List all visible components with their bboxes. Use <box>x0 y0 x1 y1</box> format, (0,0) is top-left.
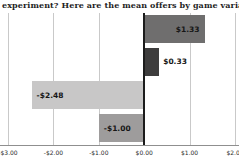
plot-area: $1.33$0.33-$2.48-$1.00 <box>8 13 235 145</box>
x-axis-tick-row: -$3.00-$2.00-$1.00$0.00$1.00$2.00 <box>0 149 239 161</box>
bar-value-label: -$2.48 <box>37 91 64 100</box>
x-axis-line <box>0 145 239 146</box>
x-tick-label: $1.00 <box>181 149 198 156</box>
x-tick-label: $2.00 <box>226 149 239 156</box>
bar-value-label: $0.33 <box>163 48 187 76</box>
x-tick-label: -$3.00 <box>0 149 18 156</box>
bar: -$1.00 <box>99 114 144 142</box>
x-tick-label: $0.00 <box>136 149 153 156</box>
gridline <box>8 13 9 145</box>
bar <box>144 48 159 76</box>
bar: -$2.48 <box>32 81 145 109</box>
x-tick-label: -$1.00 <box>89 149 108 156</box>
bar-value-label: $1.33 <box>176 25 200 34</box>
zero-axis-line <box>143 13 145 145</box>
gridline <box>53 13 54 145</box>
bar: $1.33 <box>144 15 204 43</box>
chart-caption: experiment? Here are the mean offers by … <box>2 0 238 11</box>
bar-value-label: -$1.00 <box>104 124 131 133</box>
x-tick-label: -$2.00 <box>44 149 63 156</box>
gridline <box>235 13 236 145</box>
